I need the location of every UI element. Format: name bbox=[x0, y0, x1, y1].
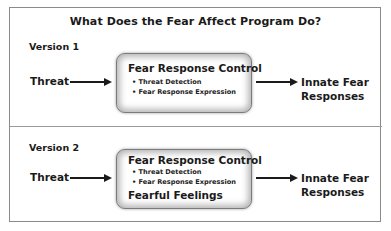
output-line-1: Innate Fear bbox=[301, 171, 369, 185]
version-divider bbox=[9, 126, 382, 127]
version-1-label: Version 1 bbox=[29, 41, 79, 52]
bullet-fear-response-expression: • Fear Response Expression bbox=[132, 88, 236, 96]
bullet-fear-response-expression: • Fear Response Expression bbox=[132, 178, 236, 186]
arrow-right-icon bbox=[70, 174, 112, 182]
version-1-fear-response-box: Fear Response Control • Threat Detection… bbox=[116, 53, 252, 113]
fearful-feelings-label: Fearful Feelings bbox=[128, 189, 223, 201]
box-title: Fear Response Control bbox=[128, 154, 262, 166]
output-line-2: Responses bbox=[301, 185, 369, 199]
output-line-1: Innate Fear bbox=[301, 75, 369, 89]
version-2-output: Innate Fear Responses bbox=[301, 171, 369, 199]
diagram-title: What Does the Fear Affect Program Do? bbox=[9, 15, 382, 28]
bullet-threat-detection: • Threat Detection bbox=[132, 78, 201, 86]
version-1-threat-label: Threat bbox=[30, 75, 69, 87]
bullet-threat-detection: • Threat Detection bbox=[132, 168, 201, 176]
version-1-output: Innate Fear Responses bbox=[301, 75, 369, 103]
arrow-right-icon bbox=[256, 174, 298, 182]
version-2-label: Version 2 bbox=[29, 142, 79, 153]
box-title: Fear Response Control bbox=[128, 62, 262, 74]
arrow-right-icon bbox=[70, 78, 112, 86]
version-2-threat-label: Threat bbox=[30, 171, 69, 183]
version-2-fear-response-box: Fear Response Control • Threat Detection… bbox=[116, 149, 252, 209]
output-line-2: Responses bbox=[301, 89, 369, 103]
arrow-right-icon bbox=[256, 78, 298, 86]
